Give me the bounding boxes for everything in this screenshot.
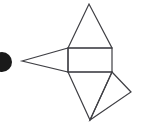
right-quadrilateral-shape bbox=[90, 72, 131, 120]
lower-triangle-shape bbox=[68, 72, 112, 120]
geometric-line-figure: geometric-line-figure bbox=[0, 0, 142, 133]
figure-canvas: geometric-line-figure bbox=[0, 0, 142, 133]
center-rectangle-shape bbox=[68, 48, 112, 72]
filled-disc-shape bbox=[0, 52, 12, 72]
upper-triangle-shape bbox=[68, 4, 112, 48]
left-pointing-triangle-shape bbox=[22, 48, 68, 72]
